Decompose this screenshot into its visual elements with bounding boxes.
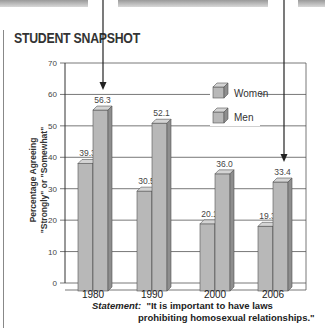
bar-men-2000: 36.0: [215, 159, 234, 291]
y-tick-label: 40: [48, 153, 57, 162]
bar-men-2006: 33.4: [273, 167, 292, 291]
bar-men-1990: 52.1: [152, 108, 171, 291]
bar-men-1980: 56.3: [93, 95, 112, 291]
y-tick-label: 50: [48, 122, 57, 131]
arrow-head-icon: [100, 82, 107, 90]
arrow-head-icon: [281, 154, 288, 162]
bar-side: [167, 119, 171, 291]
legend-cube-front: [213, 112, 224, 123]
pointer-arrows: [100, 0, 288, 162]
bar-side: [108, 106, 112, 291]
bar-side: [288, 178, 292, 291]
bar-side: [230, 170, 234, 291]
statement-line1: "It is important to have laws: [146, 300, 272, 311]
bar-front: [215, 174, 230, 291]
y-tick-label: 0: [53, 279, 58, 288]
legend-cube-front: [213, 87, 224, 98]
y-tick-label: 30: [48, 185, 57, 194]
bar-front: [137, 191, 152, 291]
bar-front: [273, 182, 288, 291]
legend-label-women: Women: [234, 88, 268, 99]
statement-note: Statement: "It is important to have laws: [92, 300, 273, 311]
arrow-pointer-2006: [281, 0, 288, 162]
y-tick-label: 60: [48, 90, 57, 99]
legend-swatch-women: [213, 83, 228, 98]
bar-front: [93, 110, 108, 291]
bar-chart: 010203040506070 Percentage Agreeing "Str…: [0, 0, 325, 328]
bar-front: [258, 226, 273, 291]
x-axis-categories: 1980199020002006: [82, 289, 285, 300]
x-category-label: 1990: [141, 289, 164, 300]
bar-value-label: 56.3: [94, 95, 111, 105]
y-axis-label-line2: "Strongly" or "Somewhat": [39, 127, 49, 233]
bar-front: [78, 163, 93, 291]
arrow-pointer-1980: [100, 0, 107, 90]
bar-front: [152, 123, 167, 291]
x-category-label: 2006: [262, 289, 285, 300]
statement-note-line2: prohibiting homosexual relationships.": [138, 312, 315, 323]
legend: WomenMen: [210, 82, 268, 126]
y-tick-label: 20: [48, 216, 57, 225]
statement-label: Statement:: [92, 300, 141, 311]
bar-front: [200, 224, 215, 291]
y-axis-ticks: 010203040506070: [48, 59, 57, 288]
legend-label-men: Men: [234, 112, 253, 123]
x-category-label: 2000: [204, 289, 227, 300]
legend-swatch-men: [213, 108, 228, 123]
bar-value-label: 33.4: [274, 167, 291, 177]
bar-value-label: 36.0: [216, 159, 233, 169]
x-category-label: 1980: [82, 289, 105, 300]
y-tick-label: 10: [48, 248, 57, 257]
y-tick-label: 70: [48, 59, 57, 68]
bar-value-label: 52.1: [153, 108, 170, 118]
y-axis-label-line1: Percentage Agreeing: [28, 138, 38, 223]
